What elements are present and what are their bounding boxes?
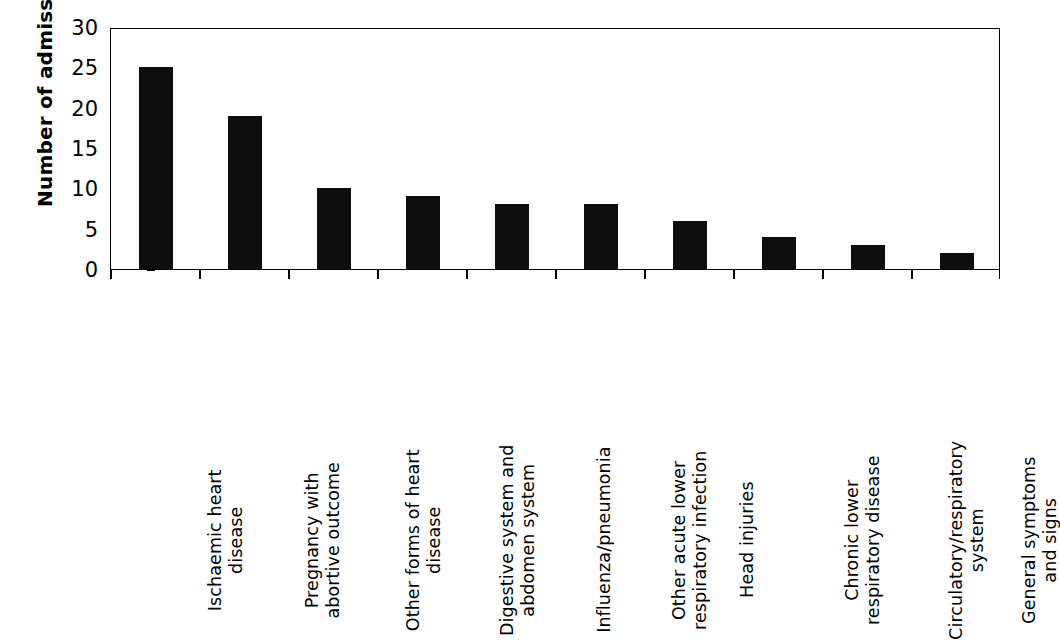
x-tick-mark bbox=[911, 270, 913, 279]
bar bbox=[584, 204, 618, 269]
x-tick-mark bbox=[999, 270, 1001, 279]
bar bbox=[228, 116, 262, 269]
x-axis-label-line: General symptoms bbox=[1019, 456, 1040, 624]
x-axis-category-labels: Ischaemic heartdiseasePregnancy withabor… bbox=[110, 282, 1000, 540]
x-label-slot: Pregnancy withabortive outcome bbox=[199, 282, 288, 540]
bar bbox=[495, 204, 529, 269]
y-tick-label: 25 bbox=[46, 58, 98, 79]
x-tick-mark bbox=[733, 270, 735, 279]
y-tick-label: 15 bbox=[46, 139, 98, 160]
x-tick-mark bbox=[555, 270, 557, 279]
x-label-slot: General symptomsand signs bbox=[911, 282, 1000, 540]
plot-area bbox=[110, 28, 1000, 270]
bar bbox=[317, 188, 351, 269]
y-tick-label: 0 bbox=[46, 260, 98, 281]
x-label-slot: Influenza/pneumonia bbox=[466, 282, 555, 540]
x-tick-mark bbox=[110, 270, 112, 279]
x-axis-ticks bbox=[110, 270, 1000, 280]
x-label-slot: Digestive system andabdomen system bbox=[377, 282, 466, 540]
x-axis-label-line: and signs bbox=[1039, 456, 1060, 624]
x-label-slot: Ischaemic heartdisease bbox=[110, 282, 199, 540]
x-label-slot: Chronic lowerrespiratory disease bbox=[733, 282, 822, 540]
x-tick-mark bbox=[466, 270, 468, 279]
x-tick-mark bbox=[288, 270, 290, 279]
bar bbox=[673, 221, 707, 269]
y-axis-tick-labels: 051015202530 bbox=[46, 28, 98, 270]
x-label-slot: Head injuries bbox=[644, 282, 733, 540]
x-label-slot: Other forms of heartdisease bbox=[288, 282, 377, 540]
x-tick-mark bbox=[377, 270, 379, 279]
x-axis-label: General symptomsand signs bbox=[1019, 456, 1060, 624]
bar bbox=[406, 196, 440, 269]
y-tick-label: 10 bbox=[46, 179, 98, 200]
bar bbox=[851, 245, 885, 269]
x-tick-mark bbox=[644, 270, 646, 279]
bar bbox=[139, 67, 173, 269]
y-tick-label: 20 bbox=[46, 98, 98, 119]
y-tick-label: 30 bbox=[46, 18, 98, 39]
x-tick-mark bbox=[199, 270, 201, 279]
x-label-slot: Other acute lowerrespiratory infection bbox=[555, 282, 644, 540]
bar bbox=[940, 253, 974, 269]
bar bbox=[762, 237, 796, 269]
x-tick-mark bbox=[822, 270, 824, 279]
y-tick-label: 5 bbox=[46, 219, 98, 240]
x-label-slot: Circulatory/respiratorysystem bbox=[822, 282, 911, 540]
bars-layer bbox=[111, 29, 999, 269]
